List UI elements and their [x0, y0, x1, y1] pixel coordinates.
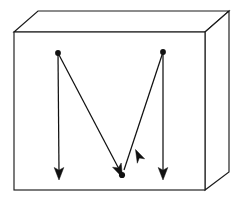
box-top-face [14, 11, 229, 32]
box-with-m-diagram [0, 0, 243, 207]
box-front-face [14, 32, 205, 190]
rectangular-solid [14, 11, 229, 190]
vertex-dot-apex-left [55, 50, 61, 56]
box-right-face [205, 11, 229, 190]
vertex-dot-valley-center [119, 172, 125, 178]
vertex-dot-apex-right [160, 49, 166, 55]
figure-container: M-shaped directed stroke path inside a t… [0, 0, 243, 207]
